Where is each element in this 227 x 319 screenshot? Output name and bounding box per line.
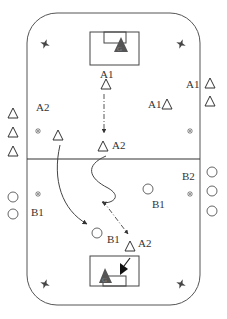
drill-diagram: G G A1 A1 A1 A2 A2 A2 [0,0,227,319]
label-b1-right: B1 [152,198,165,210]
top-goal: G [90,32,139,65]
label-a2-bottom: A2 [138,237,151,249]
marker-x-icon [36,192,40,196]
triangle-player-icon [162,99,172,109]
goalkeeper-bottom-label: G [102,276,107,284]
goalkeeper-top-label: G [117,45,122,53]
triangle-player-icon [53,130,63,140]
triangle-player-icon [125,241,135,251]
circle-player-icon [8,192,18,202]
circle-player-icon [8,209,18,219]
triangle-player-icon [98,141,108,151]
bottom-goal: G [90,256,139,286]
triangle-player-icon [8,127,18,137]
triangle-player-icon [8,146,18,156]
ball-arrow-icon [120,263,128,275]
marker-x-icon [188,192,192,196]
label-b1-bottom: B1 [107,233,120,245]
label-b2-right: B2 [182,170,195,182]
label-b1-left: B1 [31,206,44,218]
label-a2-left: A2 [36,101,49,113]
circle-player-icon [207,167,217,177]
marker-x-icon [36,129,40,133]
label-a1-side: A1 [186,78,199,90]
run-arrow-icon [57,145,87,224]
cone-star-icon [39,278,52,291]
cone-star-icon [175,38,188,51]
cone-star-icon [175,278,188,291]
circle-player-icon [207,186,217,196]
marker-x-icon [188,129,192,133]
triangle-player-icon [205,78,215,88]
circle-player-icon [92,228,102,238]
label-a1-top: A1 [100,68,113,80]
triangle-player-icon [205,96,215,106]
pass-arrow-icon [103,201,128,234]
triangle-player-icon [101,79,111,89]
dribble-path-icon [92,156,116,203]
circle-player-icon [207,206,217,216]
triangle-player-icon [8,108,18,118]
label-a1-mid: A1 [148,98,161,110]
shot-arrow-icon [124,258,130,266]
label-a2-center: A2 [112,139,125,151]
circle-player-icon [143,184,153,194]
cone-star-icon [39,38,52,51]
